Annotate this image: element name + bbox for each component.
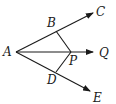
geometry-diagram: A B C P Q D E xyxy=(0,0,116,104)
label-q: Q xyxy=(99,46,109,60)
label-c: C xyxy=(96,5,105,19)
label-d: D xyxy=(46,73,57,87)
label-e: E xyxy=(92,91,102,104)
segment-bp xyxy=(56,31,71,52)
label-b: B xyxy=(46,16,56,30)
label-a: A xyxy=(2,45,12,59)
label-p: P xyxy=(68,54,78,68)
